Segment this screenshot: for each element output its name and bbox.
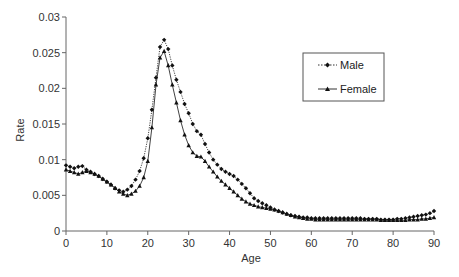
diamond-marker-icon bbox=[199, 133, 203, 137]
y-tick-label: 0.005 bbox=[32, 189, 60, 201]
y-axis: 00.0050.010.0150.020.0250.03 bbox=[32, 11, 66, 237]
y-tick-label: 0.03 bbox=[39, 11, 60, 23]
legend-label-female: Female bbox=[340, 83, 377, 95]
diamond-marker-icon bbox=[207, 150, 211, 154]
diamond-marker-icon bbox=[170, 63, 174, 67]
triangle-marker-icon bbox=[174, 100, 178, 104]
diamond-marker-icon bbox=[203, 142, 207, 146]
y-tick-label: 0.025 bbox=[32, 47, 60, 59]
triangle-marker-icon bbox=[141, 175, 145, 179]
diamond-marker-icon bbox=[178, 90, 182, 94]
diamond-marker-icon bbox=[240, 182, 244, 186]
triangle-marker-icon bbox=[137, 184, 141, 188]
triangle-marker-icon bbox=[154, 82, 158, 86]
triangle-marker-icon bbox=[162, 49, 166, 53]
diamond-marker-icon bbox=[141, 156, 145, 160]
diamond-marker-icon bbox=[424, 212, 428, 216]
triangle-marker-icon bbox=[64, 167, 68, 171]
diamond-marker-icon bbox=[191, 122, 195, 126]
diamond-marker-icon bbox=[158, 45, 162, 49]
y-axis-title: Rate bbox=[14, 118, 26, 141]
diamond-marker-icon bbox=[137, 169, 141, 173]
x-tick-label: 10 bbox=[101, 237, 113, 249]
diamond-marker-icon bbox=[129, 184, 133, 188]
diamond-marker-icon bbox=[260, 201, 264, 205]
x-axis: 0102030405060708090 bbox=[63, 231, 440, 249]
diamond-marker-icon bbox=[68, 165, 72, 169]
diamond-marker-icon bbox=[186, 111, 190, 115]
triangle-marker-icon bbox=[146, 159, 150, 163]
diamond-marker-icon bbox=[174, 78, 178, 82]
y-tick-label: 0 bbox=[54, 225, 60, 237]
diamond-marker-icon bbox=[227, 172, 231, 176]
x-tick-label: 0 bbox=[63, 237, 69, 249]
diamond-marker-icon bbox=[166, 47, 170, 51]
line-chart: 00.0050.010.0150.020.0250.03 01020304050… bbox=[0, 0, 459, 277]
triangle-marker-icon bbox=[432, 215, 436, 219]
triangle-marker-icon bbox=[186, 143, 190, 147]
legend: Male Female bbox=[303, 53, 384, 101]
x-tick-label: 80 bbox=[387, 237, 399, 249]
x-tick-label: 70 bbox=[346, 237, 358, 249]
triangle-marker-icon bbox=[166, 63, 170, 67]
triangle-marker-icon bbox=[244, 199, 248, 203]
x-axis-title: Age bbox=[241, 252, 261, 264]
triangle-marker-icon bbox=[129, 192, 133, 196]
triangle-marker-icon bbox=[178, 118, 182, 122]
diamond-marker-icon bbox=[133, 177, 137, 181]
y-tick-label: 0.02 bbox=[39, 82, 60, 94]
triangle-marker-icon bbox=[191, 150, 195, 154]
diamond-marker-icon bbox=[162, 38, 166, 42]
triangle-marker-icon bbox=[170, 82, 174, 86]
diamond-marker-icon bbox=[72, 166, 76, 170]
diamond-marker-icon bbox=[211, 157, 215, 161]
x-tick-label: 60 bbox=[305, 237, 317, 249]
triangle-marker-icon bbox=[150, 125, 154, 129]
diamond-marker-icon bbox=[256, 199, 260, 203]
y-tick-label: 0.01 bbox=[39, 154, 60, 166]
triangle-marker-icon bbox=[248, 201, 252, 205]
x-tick-label: 90 bbox=[428, 237, 440, 249]
diamond-marker-icon bbox=[428, 211, 432, 215]
diamond-marker-icon bbox=[432, 209, 436, 213]
diamond-marker-icon bbox=[64, 163, 68, 167]
legend-label-male: Male bbox=[340, 59, 364, 71]
triangle-marker-icon bbox=[182, 132, 186, 136]
diamond-marker-icon bbox=[182, 102, 186, 106]
diamond-marker-icon bbox=[76, 165, 80, 169]
diamond-marker-icon bbox=[146, 136, 150, 140]
diamond-marker-icon bbox=[215, 162, 219, 166]
x-tick-label: 30 bbox=[183, 237, 195, 249]
y-tick-label: 0.015 bbox=[32, 118, 60, 130]
diamond-marker-icon bbox=[252, 196, 256, 200]
x-tick-label: 20 bbox=[142, 237, 154, 249]
x-tick-label: 40 bbox=[223, 237, 235, 249]
x-tick-label: 50 bbox=[264, 237, 276, 249]
